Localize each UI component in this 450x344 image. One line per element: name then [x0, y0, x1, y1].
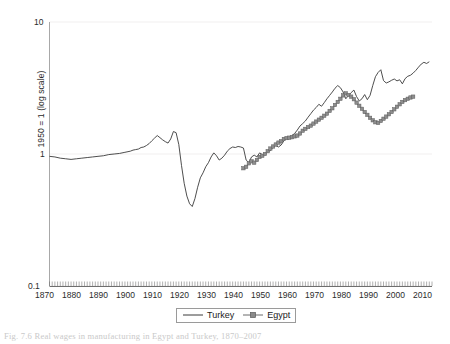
y-tick-label-10: 10 [34, 17, 43, 27]
x-axis-tick-marks [50, 282, 433, 287]
series-line-turkey [50, 62, 430, 207]
x-tick-label-1930: 1930 [197, 290, 216, 300]
x-tick-label-1890: 1890 [89, 290, 108, 300]
x-tick-label-1960: 1960 [278, 290, 297, 300]
x-tick-label-1980: 1980 [332, 290, 351, 300]
series-markers-egypt [242, 92, 415, 170]
figure-caption: Fig. 7.6 Real wages in manufacturing in … [4, 331, 444, 341]
x-tick-label-1920: 1920 [170, 290, 189, 300]
legend-label-turkey: Turkey [207, 310, 234, 320]
y-tick-label-1: 1 [40, 149, 45, 159]
chart-canvas [0, 0, 450, 300]
x-tick-label-2000: 2000 [386, 290, 405, 300]
x-tick-label-2010: 2010 [413, 290, 432, 300]
legend-item-turkey: Turkey [182, 310, 234, 320]
x-tick-label-1880: 1880 [62, 290, 81, 300]
x-tick-label-1910: 1910 [143, 290, 162, 300]
series-line-egypt [243, 93, 413, 168]
gridlines [50, 22, 433, 286]
chart-legend: Turkey Egypt [176, 308, 296, 323]
x-tick-label-1940: 1940 [224, 290, 243, 300]
figure-container: 1950 = 1 (log scale) 10 1 0.1 1870 1880 … [0, 0, 450, 344]
x-tick-label-1900: 1900 [116, 290, 135, 300]
y-axis-label: 1950 = 1 (log scale) [36, 34, 46, 184]
legend-item-egypt: Egypt [242, 310, 290, 320]
legend-swatch-egypt-line-square [242, 311, 264, 319]
x-tick-label-1950: 1950 [251, 290, 270, 300]
x-tick-label-1870: 1870 [35, 290, 54, 300]
x-tick-label-1990: 1990 [359, 290, 378, 300]
x-tick-label-1970: 1970 [305, 290, 324, 300]
legend-swatch-turkey-line [182, 311, 204, 319]
legend-label-egypt: Egypt [267, 310, 290, 320]
chart-plot-area: 1950 = 1 (log scale) 10 1 0.1 1870 1880 … [0, 0, 450, 300]
